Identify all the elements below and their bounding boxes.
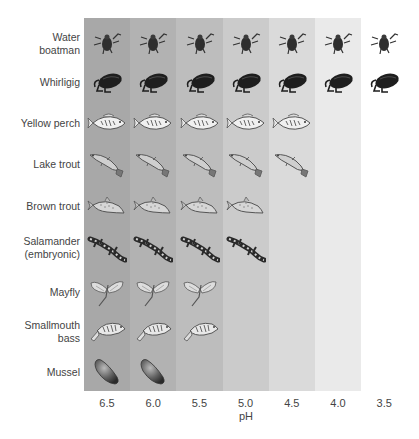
whirligig-icon [180,67,220,97]
whirligig-icon [133,67,173,97]
yellow-perch-icon [226,108,266,138]
whirligig-icon [364,67,404,97]
water-boatman-icon [364,29,404,59]
x-axis-label: pH [223,410,269,422]
organism-label: Yellow perch [0,117,80,130]
whirligig-icon [87,67,127,97]
yellow-perch-icon [272,108,312,138]
ph-tick-label: 3.5 [361,397,407,409]
organism-label: Mayfly [0,286,80,299]
organism-label: Lake trout [0,158,80,171]
yellow-perch-icon [180,108,220,138]
brown-trout-icon [180,191,220,221]
water-boatman-icon [272,29,312,59]
ph-tick-label: 5.5 [176,397,222,409]
organism-label: Salamander(embryonic) [0,235,80,261]
water-boatman-icon [180,29,220,59]
mussel-icon [133,357,173,387]
brown-trout-icon [226,191,266,221]
lake-trout-icon [87,149,127,179]
salamander-icon [87,233,127,263]
water-boatman-icon [87,29,127,59]
organism-label: Brown trout [0,200,80,213]
whirligig-icon [272,67,312,97]
ph-tick-label: 6.5 [84,397,130,409]
mussel-icon [87,357,127,387]
salamander-icon [226,233,266,263]
water-boatman-icon [318,29,358,59]
brown-trout-icon [133,191,173,221]
organism-label: Whirligig [0,76,80,89]
mayfly-icon [87,277,127,307]
smallmouth-bass-icon [180,317,220,347]
water-boatman-icon [226,29,266,59]
ph-tick-label: 4.0 [315,397,361,409]
lake-trout-icon [133,149,173,179]
ph-tick-label: 5.0 [223,397,269,409]
smallmouth-bass-icon [133,317,173,347]
lake-trout-icon [272,149,312,179]
yellow-perch-icon [133,108,173,138]
salamander-icon [180,233,220,263]
salamander-icon [133,233,173,263]
lake-trout-icon [180,149,220,179]
brown-trout-icon [87,191,127,221]
ph-tick-label: 6.0 [130,397,176,409]
ph-tick-label: 4.5 [269,397,315,409]
whirligig-icon [318,67,358,97]
mayfly-icon [180,277,220,307]
smallmouth-bass-icon [87,317,127,347]
whirligig-icon [226,67,266,97]
organism-label: Waterboatman [0,31,80,57]
organism-label: Mussel [0,366,80,379]
mayfly-icon [133,277,173,307]
water-boatman-icon [133,29,173,59]
lake-trout-icon [226,149,266,179]
organism-label: Smallmouthbass [0,319,80,345]
yellow-perch-icon [87,108,127,138]
